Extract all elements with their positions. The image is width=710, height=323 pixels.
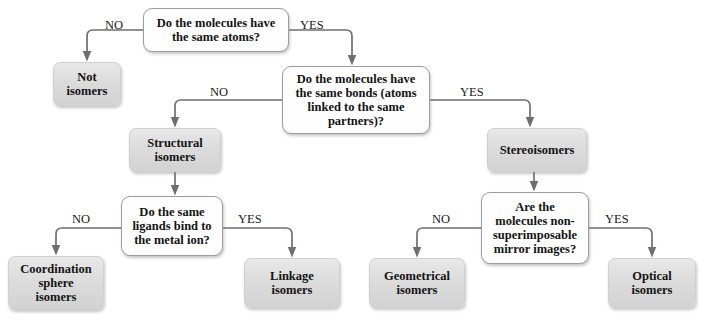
edge-label-yes-non-superimposable: YES <box>605 212 629 227</box>
node-label: Geometrical isomers <box>379 269 455 298</box>
edge-label-no-same-ligands: NO <box>72 212 90 227</box>
node-do-same-ligands-bind: Do the same ligands bind to the metal io… <box>121 196 223 256</box>
edge-same-bonds-yes <box>430 100 530 122</box>
edge-same-atoms-yes <box>289 30 352 60</box>
node-structural-isomers: Structural isomers <box>129 128 221 172</box>
edge-ligands-yes <box>223 228 292 252</box>
node-label: Optical isomers <box>627 269 678 298</box>
node-do-molecules-have-same-bonds: Do the molecules have the same bonds (at… <box>282 66 430 134</box>
node-stereoisomers: Stereoisomers <box>487 128 587 172</box>
node-label: Do the same ligands bind to the metal io… <box>127 205 216 248</box>
node-not-isomers: Not isomers <box>53 62 121 106</box>
node-label: Are the molecules non- superimposable mi… <box>488 200 582 257</box>
node-label: Linkage isomers <box>265 269 319 298</box>
flowchart-diagram: Do the molecules have the same atoms? No… <box>0 0 710 323</box>
node-linkage-isomers: Linkage isomers <box>244 258 340 308</box>
node-label: Stereoisomers <box>495 143 580 157</box>
node-do-molecules-have-same-atoms: Do the molecules have the same atoms? <box>143 8 289 52</box>
node-geometrical-isomers: Geometrical isomers <box>369 258 465 308</box>
node-label: Not isomers <box>62 70 113 99</box>
node-label: Structural isomers <box>142 136 208 165</box>
edge-mirror-no <box>417 228 481 252</box>
edge-label-yes-same-atoms: YES <box>300 18 324 33</box>
node-coordination-sphere-isomers: Coordination sphere isomers <box>8 256 104 310</box>
edge-ligands-no <box>56 228 121 250</box>
edge-same-bonds-no <box>175 100 282 122</box>
edge-label-no-same-atoms: NO <box>105 18 123 33</box>
node-label: Do the molecules have the same atoms? <box>152 16 280 45</box>
edge-same-atoms-no <box>87 30 143 56</box>
edge-label-no-non-superimposable: NO <box>432 212 450 227</box>
edge-label-no-same-bonds: NO <box>210 85 228 100</box>
node-optical-isomers: Optical isomers <box>608 258 696 308</box>
edge-mirror-yes <box>589 228 652 252</box>
node-are-molecules-non-superimposable: Are the molecules non- superimposable mi… <box>481 192 589 264</box>
edge-label-yes-same-ligands: YES <box>238 212 262 227</box>
connector-layer <box>0 0 710 323</box>
node-label: Do the molecules have the same bonds (at… <box>290 72 421 129</box>
node-label: Coordination sphere isomers <box>15 262 97 305</box>
edge-label-yes-same-bonds: YES <box>460 85 484 100</box>
